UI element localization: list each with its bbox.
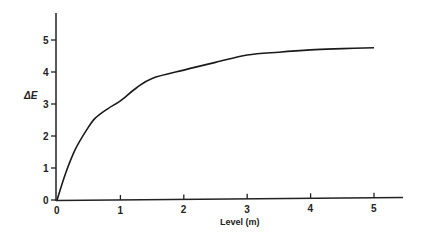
x-axis-line (56, 198, 403, 201)
y-tick-label: 4 (43, 67, 49, 78)
x-tick-label: 2 (181, 204, 187, 215)
x-tick-label: 0 (54, 205, 60, 216)
line-chart: 012345 ΔE 012345 Level (m) (0, 0, 422, 239)
y-tick-label: 0 (43, 195, 49, 206)
x-axis-label: Level (m) (220, 217, 260, 227)
y-tick-label: 2 (43, 131, 49, 142)
x-ticks: 012345 (54, 193, 377, 217)
x-tick-label: 3 (244, 204, 250, 215)
x-tick-label: 1 (117, 205, 123, 216)
x-axis: 012345 Level (m) (54, 193, 403, 227)
x-tick-label: 4 (308, 203, 314, 214)
x-tick-label: 5 (371, 203, 377, 214)
y-tick-label: 5 (43, 35, 49, 46)
y-tick-label: 1 (43, 163, 49, 174)
y-ticks: 012345 (43, 35, 56, 206)
y-axis-label: ΔE (23, 90, 38, 101)
y-tick-label: 3 (43, 99, 49, 110)
data-line (57, 48, 374, 200)
y-axis: 012345 ΔE (23, 13, 56, 206)
